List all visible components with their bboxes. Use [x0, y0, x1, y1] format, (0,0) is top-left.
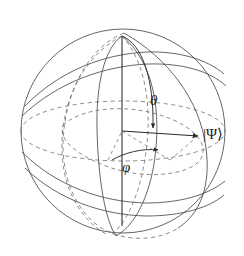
phi-angle-label: φ — [122, 160, 130, 175]
state-vector-line — [122, 131, 198, 136]
phi-arc-path — [112, 150, 158, 160]
theta-angle-label: θ — [150, 93, 157, 108]
projection-ellipse-dashed — [62, 109, 203, 175]
upper-latitude-line — [25, 52, 224, 106]
state-vector-label: |Ψ⟩ — [203, 127, 223, 142]
state-vector-arrow — [122, 131, 198, 136]
tilted-great-circle-front — [124, 33, 207, 228]
vector-projection-line — [170, 136, 198, 160]
sphere-wireframe — [21, 29, 226, 238]
bloch-sphere-figure: θ φ |Ψ⟩ — [0, 0, 244, 256]
lower-latitude-line-2 — [25, 168, 224, 216]
equator-ellipse-back — [21, 101, 225, 131]
vertical-great-circle-back — [97, 36, 122, 236]
dashed-meridian-back — [62, 36, 122, 234]
equatorial-radius-line — [122, 131, 170, 160]
phi-arc — [112, 150, 158, 160]
upper-latitude-line-2 — [22, 64, 226, 116]
